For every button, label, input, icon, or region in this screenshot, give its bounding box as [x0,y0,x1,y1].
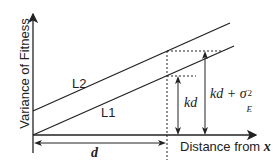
x-axis-text: Distance from [180,139,264,154]
y-axis-label: Variance of Fitness [17,9,32,139]
sigma-sub: E [247,104,253,114]
line-l1-label: L1 [101,105,115,120]
x-axis-var: x [264,139,271,154]
kd-sigma-label: kd + σ2E [210,86,255,102]
x-axis-label: Distance from x [180,139,271,155]
kd-label: kd [184,95,197,111]
kd-sigma-text: kd + σ [210,86,247,101]
distance-d-label: d [91,145,98,161]
line-l1 [33,46,234,135]
line-l2 [33,23,230,111]
sigma-sup: 2 [248,88,253,98]
line-l2-label: L2 [72,76,86,91]
